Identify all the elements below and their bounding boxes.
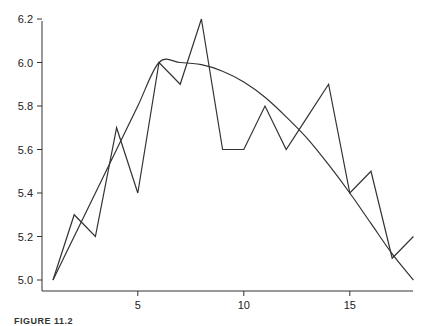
y-tick-label: 6.0: [18, 57, 33, 69]
x-tick-label: 10: [238, 299, 250, 311]
x-tick-label: 5: [135, 299, 141, 311]
y-tick-label: 5.8: [18, 100, 33, 112]
series-smooth-fit: [53, 59, 413, 280]
y-tick-label: 5.0: [18, 274, 33, 286]
figure-caption: FIGURE 11.2: [14, 316, 73, 326]
y-tick-label: 6.2: [18, 13, 33, 25]
y-tick-label: 5.4: [18, 187, 33, 199]
series-group: [53, 19, 413, 280]
y-tick-label: 5.6: [18, 144, 33, 156]
y-tick-label: 5.2: [18, 231, 33, 243]
x-tick-label: 15: [344, 299, 356, 311]
series-observed: [53, 19, 413, 280]
x-axis: 51015: [42, 291, 413, 311]
y-axis: 5.05.25.45.65.86.06.2: [18, 13, 42, 291]
